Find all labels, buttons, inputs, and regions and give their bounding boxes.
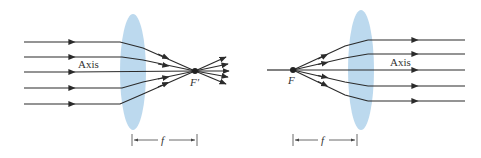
- focal-point-label-right: F: [287, 74, 295, 86]
- outgoing-parallel-rays: [368, 40, 465, 101]
- axis-label-left: Axis: [78, 58, 99, 70]
- axis-label-right: Axis: [390, 56, 411, 68]
- ray-diagram: Axis F′ f: [0, 0, 481, 158]
- right-diagram: Axis F f: [267, 10, 465, 146]
- focal-length-label-left: f: [161, 134, 166, 146]
- left-diagram: Axis F′ f: [24, 14, 229, 146]
- focal-point-right: [290, 67, 296, 73]
- incoming-parallel-rays: [24, 42, 195, 104]
- focal-point-label-left: F′: [189, 76, 200, 88]
- focal-point-left: [192, 68, 198, 74]
- diverging-rays-after-focus: [195, 57, 229, 84]
- focal-length-label-right: f: [321, 134, 326, 146]
- converging-ray-arrows: [158, 54, 166, 87]
- focal-length-dimension-right: f: [293, 134, 357, 146]
- focal-length-dimension-left: f: [132, 134, 197, 146]
